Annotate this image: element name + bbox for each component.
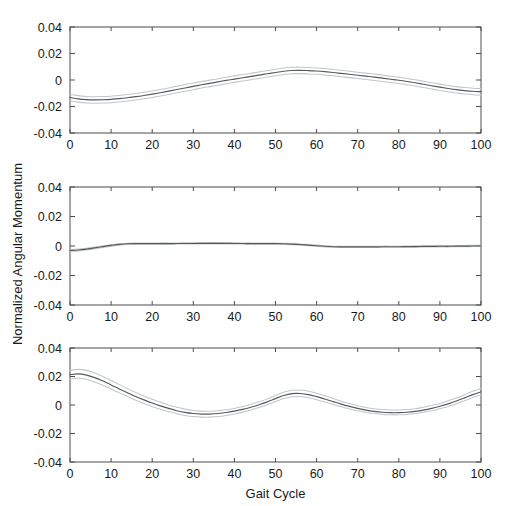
x-tick-label: 70 xyxy=(351,138,365,152)
x-tick-label: 80 xyxy=(392,467,406,481)
x-tick-label: 50 xyxy=(269,467,283,481)
x-tick-label: 100 xyxy=(471,310,492,324)
y-tick-label: -0.04 xyxy=(34,299,63,313)
axes-frame-3 xyxy=(70,348,481,462)
x-tick-label: 40 xyxy=(227,138,241,152)
x-tick-label: 50 xyxy=(269,138,283,152)
x-tick-label: 0 xyxy=(67,467,74,481)
x-tick-label: 20 xyxy=(145,310,159,324)
x-tick-label: 40 xyxy=(227,467,241,481)
x-tick-label: 70 xyxy=(351,310,365,324)
y-axis-label: Normalized Angular Momentum xyxy=(10,163,25,345)
series-upper-1 xyxy=(70,67,481,97)
series-lower-2 xyxy=(70,244,481,251)
x-tick-label: 10 xyxy=(104,310,118,324)
y-tick-label: 0 xyxy=(55,74,62,88)
x-tick-label: 30 xyxy=(186,467,200,481)
subplot-2: 0102030405060708090100-0.04-0.0200.020.0… xyxy=(34,181,492,325)
y-tick-label: 0 xyxy=(55,399,62,413)
angular-momentum-figure: 0102030405060708090100-0.04-0.0200.020.0… xyxy=(0,0,510,506)
y-tick-label: 0.04 xyxy=(38,342,62,356)
y-tick-label: 0.02 xyxy=(38,47,62,61)
x-tick-label: 0 xyxy=(67,310,74,324)
y-tick-label: -0.02 xyxy=(34,269,63,283)
y-tick-label: -0.02 xyxy=(34,100,63,114)
x-tick-label: 10 xyxy=(104,467,118,481)
y-tick-label: 0.02 xyxy=(38,210,62,224)
x-tick-label: 60 xyxy=(310,310,324,324)
x-tick-label: 90 xyxy=(433,467,447,481)
series-mean-1 xyxy=(70,70,481,100)
y-tick-label: 0.02 xyxy=(38,370,62,384)
x-tick-label: 10 xyxy=(104,138,118,152)
x-tick-label: 30 xyxy=(186,310,200,324)
x-tick-label: 90 xyxy=(433,138,447,152)
x-axis-label: Gait Cycle xyxy=(246,486,306,501)
y-tick-label: -0.04 xyxy=(34,456,63,470)
x-tick-label: 40 xyxy=(227,310,241,324)
subplot-3: 0102030405060708090100-0.04-0.0200.020.0… xyxy=(34,342,492,482)
figure-container: 0102030405060708090100-0.04-0.0200.020.0… xyxy=(0,0,510,506)
x-tick-label: 20 xyxy=(145,467,159,481)
x-tick-label: 80 xyxy=(392,310,406,324)
series-upper-3 xyxy=(70,369,481,411)
x-tick-label: 50 xyxy=(269,310,283,324)
x-tick-label: 100 xyxy=(471,467,492,481)
y-tick-label: -0.04 xyxy=(34,127,63,141)
x-tick-label: 80 xyxy=(392,138,406,152)
x-tick-label: 20 xyxy=(145,138,159,152)
x-tick-label: 60 xyxy=(310,138,324,152)
y-tick-label: 0.04 xyxy=(38,21,62,35)
x-tick-label: 70 xyxy=(351,467,365,481)
y-tick-label: 0 xyxy=(55,240,62,254)
x-tick-label: 0 xyxy=(67,138,74,152)
series-lower-1 xyxy=(70,74,481,104)
x-tick-label: 30 xyxy=(186,138,200,152)
y-tick-label: 0.04 xyxy=(38,181,62,195)
subplot-1: 0102030405060708090100-0.04-0.0200.020.0… xyxy=(34,21,492,153)
x-tick-label: 90 xyxy=(433,310,447,324)
x-tick-label: 100 xyxy=(471,138,492,152)
y-tick-label: -0.02 xyxy=(34,427,63,441)
x-tick-label: 60 xyxy=(310,467,324,481)
